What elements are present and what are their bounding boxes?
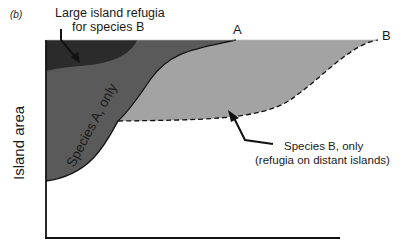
curve-a-label: A	[233, 22, 242, 37]
large-refugia-label-line2: for species B	[72, 20, 144, 34]
species-b-only-label-line1: Species B, only	[284, 140, 364, 152]
large-refugia-label-line1: Large island refugia	[55, 6, 165, 20]
species-b-only-label-line2: (refugia on distant islands)	[255, 154, 390, 166]
species-b-arrow	[234, 118, 273, 144]
y-axis-label: Island area	[10, 105, 27, 180]
curve-b-label: B	[382, 28, 391, 43]
diagram-canvas: (b) Large island refugia for species B A…	[0, 0, 404, 250]
panel-label: (b)	[10, 9, 22, 20]
